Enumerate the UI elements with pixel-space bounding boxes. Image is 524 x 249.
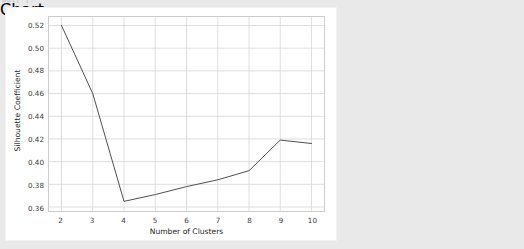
x-axis-tick-label: 7 — [216, 216, 221, 225]
y-axis-tick-label: 0.46 — [28, 89, 44, 98]
y-axis-tick-label: 0.44 — [28, 112, 44, 121]
x-axis-tick-label: 5 — [153, 216, 158, 225]
plot-axes-area — [48, 16, 325, 212]
notebook-output-prompt: Out[ ]: — [2, 0, 34, 4]
chart-line-series — [49, 17, 324, 211]
x-axis-tick-label: 9 — [279, 216, 284, 225]
y-axis-tick-label: 0.42 — [28, 135, 44, 144]
x-axis-tick-label: 10 — [308, 216, 317, 225]
x-axis-tick-label: 4 — [121, 216, 126, 225]
y-axis-tick-label: 0.50 — [28, 43, 44, 52]
x-axis-tick-label: 6 — [184, 216, 189, 225]
x-axis-title: Number of Clusters — [48, 227, 325, 236]
x-axis-tick-label: 8 — [247, 216, 252, 225]
y-axis-tick-label: 0.52 — [28, 20, 44, 29]
y-axis-tick-label: 0.38 — [28, 181, 44, 190]
x-axis-tick-label: 2 — [58, 216, 63, 225]
y-axis-tick-label: 0.40 — [28, 158, 44, 167]
y-axis-tick-label: 0.36 — [28, 203, 44, 212]
y-axis-tick-label: 0.48 — [28, 66, 44, 75]
y-axis-title: Silhouette Coefficient — [13, 13, 22, 209]
x-axis-tick-label: 3 — [90, 216, 95, 225]
chart-figure-card: 0.360.380.400.420.440.460.480.500.52 234… — [6, 8, 336, 240]
